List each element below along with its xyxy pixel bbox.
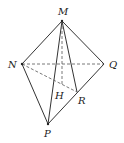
solid-edge-mq [62, 21, 104, 64]
solid-edge-mn [22, 21, 62, 64]
vertex-dot-m [61, 20, 63, 22]
solid-edge-mr [62, 21, 77, 92]
vertex-dot-p [47, 123, 49, 125]
label-m: M [57, 6, 69, 17]
dashed-edge-nr [22, 64, 77, 92]
label-q: Q [109, 59, 117, 70]
label-r: R [77, 95, 86, 106]
vertex-dot-n [21, 63, 23, 65]
tetrahedron-diagram: M N Q P H R [0, 0, 124, 143]
solid-edges [22, 21, 104, 124]
label-p: P [43, 128, 51, 139]
label-h: H [54, 90, 64, 101]
label-n: N [7, 59, 18, 70]
solid-edge-np [22, 64, 48, 124]
dashed-edges [22, 21, 104, 92]
solid-edge-mp [48, 21, 62, 124]
